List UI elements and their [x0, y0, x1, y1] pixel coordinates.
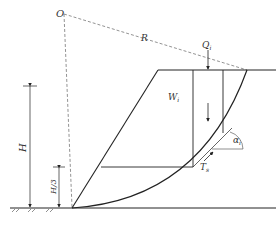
- weight-label: Wi: [168, 92, 179, 103]
- ground-hatch: [12, 209, 53, 212]
- angle-label: αi: [233, 135, 241, 146]
- tangent-line: [193, 128, 232, 167]
- radius-label: R: [140, 33, 148, 43]
- shear-arrow: [204, 152, 213, 161]
- slope-face: [72, 70, 158, 208]
- surcharge-label: Qi: [202, 40, 211, 51]
- height-label: H: [17, 143, 28, 153]
- third-height-label: H/3: [49, 179, 58, 195]
- slope-diagram: O R Qi Wi αi Ts H H/3: [0, 0, 276, 229]
- shear-label: Ts: [200, 162, 209, 173]
- center-label: O: [56, 8, 64, 19]
- radius-lines: [64, 14, 247, 207]
